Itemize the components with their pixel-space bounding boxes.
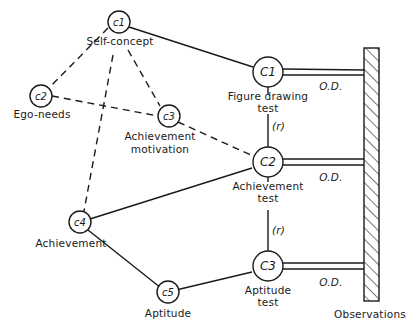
od-link-1-top: [283, 69, 364, 70]
solid-edges: [88, 27, 268, 290]
symbol-C2: C2: [260, 155, 276, 169]
label-r-2: (r): [272, 224, 292, 236]
diagram-canvas: c1 c2 c3 c4 c5 C1 C2 C3: [0, 0, 410, 328]
symbol-c2: c2: [35, 91, 47, 102]
construct-diagram: c1 c2 c3 c4 c5 C1 C2 C3 Self-concept Ego…: [0, 0, 410, 328]
observations-bar: [364, 48, 379, 301]
edge-c1-c4: [84, 55, 113, 211]
label-figure-drawing-2: test: [210, 102, 326, 114]
label-achievement-motivation-2: motivation: [110, 143, 210, 155]
label-aptitude: Aptitude: [136, 307, 200, 319]
label-achievement-test-2: test: [210, 192, 326, 204]
symbol-c4: c4: [74, 217, 86, 228]
latent-nodes: [30, 11, 180, 303]
label-achievement-motivation-1: Achievement: [110, 130, 210, 142]
edge-c1-c3: [128, 50, 160, 106]
symbol-c1: c1: [113, 17, 125, 28]
label-achievement-test-1: Achievement: [210, 180, 326, 192]
label-od-3: O.D.: [316, 276, 346, 288]
label-figure-drawing-1: Figure drawing: [210, 90, 326, 102]
symbol-C3: C3: [260, 259, 276, 273]
symbol-c3: c3: [163, 111, 175, 122]
symbol-C1: C1: [260, 65, 276, 79]
edge-c1-C1: [129, 27, 253, 67]
label-self-concept: Self-concept: [72, 35, 168, 47]
label-r-1: (r): [272, 120, 292, 132]
symbol-c5: c5: [162, 287, 174, 298]
label-observations: Observations: [330, 308, 410, 320]
label-od-1: O.D.: [316, 80, 346, 92]
label-aptitude-test-2: test: [210, 296, 326, 308]
label-od-2: O.D.: [316, 171, 346, 183]
label-achievement: Achievement: [30, 237, 112, 249]
label-aptitude-test-1: Aptitude: [210, 284, 326, 296]
label-ego-needs: Ego-needs: [4, 108, 80, 120]
